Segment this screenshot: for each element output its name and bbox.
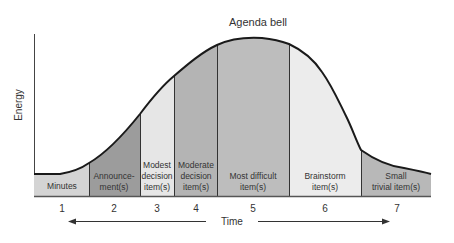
- segment-fill-2: [89, 0, 140, 200]
- agenda-bell-diagram: Agenda bell Energy Minutes Announce- men…: [0, 0, 454, 243]
- segment-fills: [34, 0, 431, 200]
- segment-numbers: 1 2 3 4 5 6 7: [59, 203, 400, 214]
- segment-number-1: 1: [59, 203, 65, 214]
- segment-label-3-line3: item(s): [144, 182, 170, 192]
- diagram-title: Agenda bell: [229, 16, 287, 28]
- time-arrow: Time: [68, 216, 390, 227]
- segment-label-6-line2: item(s): [312, 182, 338, 192]
- segment-label-4-line1: Moderate: [178, 160, 214, 170]
- segment-label-5-line1: Most difficult: [229, 171, 277, 181]
- segment-label-2-line1: Announce-: [93, 171, 134, 181]
- segment-fill-4: [174, 0, 217, 200]
- segment-label-2-line2: ment(s): [100, 182, 129, 192]
- segment-number-2: 2: [111, 203, 117, 214]
- segment-label-7-line1: Small: [385, 171, 406, 181]
- segment-number-6: 6: [322, 203, 328, 214]
- segment-label-1: Minutes: [47, 181, 77, 191]
- segment-label-5-line2: item(s): [240, 182, 266, 192]
- segment-number-3: 3: [154, 203, 160, 214]
- segment-label-7-line2: trivial item(s): [372, 182, 420, 192]
- segment-fill-3: [140, 0, 174, 200]
- segment-fill-7: [361, 0, 431, 200]
- segment-fill-5: [217, 0, 289, 200]
- segment-fill-6: [289, 0, 361, 200]
- y-axis-label: Energy: [13, 89, 24, 121]
- segment-number-4: 4: [193, 203, 199, 214]
- segment-number-5: 5: [250, 203, 256, 214]
- segment-fill-1: [34, 0, 89, 200]
- segment-number-7: 7: [394, 203, 400, 214]
- arrow-left-icon: [68, 219, 76, 225]
- segment-label-3-line2: decision: [141, 171, 172, 181]
- segment-label-4-line2: decision: [180, 171, 211, 181]
- segment-label-3-line1: Modest: [143, 160, 172, 170]
- segment-label-6-line1: Brainstorm: [304, 171, 345, 181]
- arrow-right-icon: [382, 219, 390, 225]
- x-axis-label: Time: [221, 216, 243, 227]
- segment-label-4-line3: item(s): [183, 182, 209, 192]
